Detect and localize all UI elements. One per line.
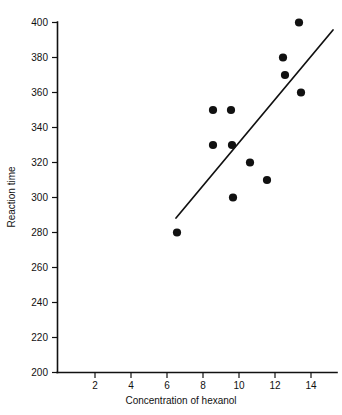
x-tick-label: 14 — [305, 380, 317, 391]
scatter-chart: 200 220 240 260 280 300 320 340 360 380 … — [0, 0, 342, 415]
data-point — [279, 53, 287, 61]
x-tick-label: 2 — [92, 380, 98, 391]
x-tick-label: 10 — [233, 380, 245, 391]
y-tick-label: 280 — [31, 227, 48, 238]
data-point — [173, 228, 181, 236]
x-axis-title: Concentration of hexanol — [125, 395, 236, 406]
x-tick-label: 6 — [164, 380, 170, 391]
y-tick-label: 340 — [31, 122, 48, 133]
data-point — [295, 18, 303, 26]
x-tick-label: 8 — [200, 380, 206, 391]
y-tick-label: 240 — [31, 297, 48, 308]
data-point — [228, 141, 236, 149]
y-axis-title: Reaction time — [6, 166, 17, 228]
x-axis-ticks: 2 4 6 8 10 12 14 — [92, 373, 317, 392]
y-tick-label: 260 — [31, 262, 48, 273]
data-point — [281, 71, 289, 79]
x-tick-label: 12 — [269, 380, 281, 391]
y-tick-label: 200 — [31, 367, 48, 378]
data-points — [173, 18, 305, 236]
data-point — [229, 193, 237, 201]
data-point — [209, 141, 217, 149]
y-tick-label: 300 — [31, 192, 48, 203]
data-point — [227, 106, 235, 114]
y-tick-label: 320 — [31, 157, 48, 168]
data-point — [297, 88, 305, 96]
y-tick-label: 380 — [31, 52, 48, 63]
y-tick-label: 360 — [31, 87, 48, 98]
x-tick-label: 4 — [128, 380, 134, 391]
regression-line — [176, 30, 333, 218]
y-axis-ticks: 200 220 240 260 280 300 320 340 360 380 … — [31, 17, 57, 378]
plot-canvas: 200 220 240 260 280 300 320 340 360 380 … — [0, 0, 342, 415]
data-point — [209, 106, 217, 114]
data-point — [246, 158, 254, 166]
data-point — [263, 176, 271, 184]
y-tick-label: 220 — [31, 332, 48, 343]
y-tick-label: 400 — [31, 17, 48, 28]
